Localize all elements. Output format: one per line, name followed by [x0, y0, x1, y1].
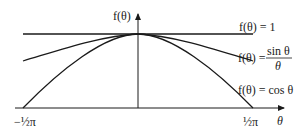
legend-sinc: f(θ) = sin θ θ [238, 44, 292, 73]
x-axis-label: θ [277, 114, 283, 128]
svg-text:f(θ) = 1: f(θ) = 1 [239, 20, 276, 34]
svg-text:sin θ: sin θ [267, 44, 290, 58]
legend-cos: f(θ) = cos θ [238, 83, 294, 97]
tick-left: −½π [14, 115, 36, 129]
y-axis-label: f(θ) [113, 9, 131, 23]
function-diagram: f(θ) θ −½π ½π f(θ) = 1 f(θ) = sin θ θ f(… [0, 0, 300, 133]
tick-right: ½π [243, 115, 258, 129]
svg-text:f(θ) = cos θ: f(θ) = cos θ [238, 83, 294, 97]
svg-text:θ: θ [275, 59, 281, 73]
legend-constant: f(θ) = 1 [239, 20, 276, 34]
svg-text:f(θ) =: f(θ) = [238, 51, 266, 65]
